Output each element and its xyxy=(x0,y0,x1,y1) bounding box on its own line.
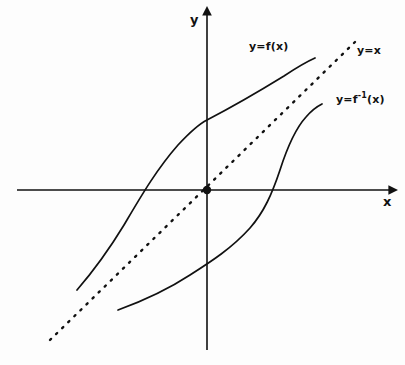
curve-f-inverse-of-x xyxy=(118,104,322,310)
inverse-label-exponent: -1 xyxy=(358,91,367,100)
x-axis-label: x xyxy=(383,194,392,209)
curve-label-f-inverse-of-x: y=f-1(x) xyxy=(336,93,385,106)
inverse-label-suffix: (x) xyxy=(367,93,385,106)
function-inverse-plot xyxy=(0,0,405,365)
curve-label-y-equals-x: y=x xyxy=(357,44,381,57)
figure-container: y x y=f(x) y=x y=f-1(x) xyxy=(0,0,405,365)
y-axis-label: y xyxy=(190,12,199,27)
inverse-label-prefix: y=f xyxy=(336,93,358,106)
curve-label-f-of-x: y=f(x) xyxy=(249,40,289,53)
origin-point xyxy=(203,186,211,194)
identity-line-y-equals-x xyxy=(50,42,355,340)
